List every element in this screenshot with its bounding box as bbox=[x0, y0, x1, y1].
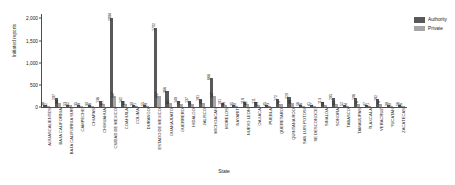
x-axis-tick-text: VERACRUZ bbox=[379, 108, 384, 131]
bar-private: 94 bbox=[58, 103, 61, 107]
x-axis-tick-text: CHIHUAHUA bbox=[102, 108, 107, 133]
x-axis-tick-text: OAXACA bbox=[257, 108, 262, 125]
bar-group: 13757 bbox=[185, 14, 196, 107]
bar-chart: Initiated reports 05001,0001,5002,000362… bbox=[0, 0, 455, 185]
bar-group: 3518 bbox=[74, 14, 85, 107]
bar-value-label: 1792 bbox=[152, 23, 156, 31]
bar-private: 70 bbox=[379, 104, 382, 107]
bar-value-label: 19 bbox=[388, 103, 392, 107]
x-axis-tick-text: SE DESCONOCE bbox=[313, 108, 318, 142]
x-axis-tick-text: NUEVO LEON bbox=[246, 108, 251, 135]
y-axis-title: Initiated reports bbox=[12, 1, 17, 81]
bar-private: 82 bbox=[169, 103, 172, 107]
bar-group: 4117 bbox=[307, 14, 318, 107]
bar-group: 5528 bbox=[141, 14, 152, 107]
bar-value-label: 26 bbox=[88, 103, 92, 107]
bar-private: 19 bbox=[390, 106, 393, 107]
bar-value-label: 26 bbox=[299, 103, 303, 107]
bar-value-label: 26 bbox=[399, 103, 403, 107]
bar-group: 5626 bbox=[396, 14, 407, 107]
bar-group: 14264 bbox=[119, 14, 130, 107]
bar-group: 11148 bbox=[252, 14, 263, 107]
bar-value-label: 366 bbox=[163, 87, 167, 93]
x-axis-tick-text: MORELOS bbox=[224, 108, 229, 129]
bar-private: 74 bbox=[357, 104, 360, 107]
bar-private: 247 bbox=[213, 96, 216, 107]
bar-group: 19674 bbox=[352, 14, 363, 107]
bar-value-label: 72 bbox=[177, 101, 181, 105]
x-axis-tick-text: NAYARIT bbox=[235, 108, 240, 125]
bar-private: 28 bbox=[146, 106, 149, 107]
bar-group: 3921 bbox=[130, 14, 141, 107]
x-axis-tick-text: SONORA bbox=[335, 108, 340, 126]
bar-value-label: 42 bbox=[66, 102, 70, 106]
bar-private: 79 bbox=[279, 104, 282, 107]
x-axis-tick-text: BAJA CALIFORNIA SUR bbox=[69, 108, 74, 154]
bar-value-label: 38 bbox=[222, 102, 226, 106]
x-axis-tick-text: HIDALGO bbox=[191, 108, 196, 127]
bar-value-label: 70 bbox=[377, 101, 381, 105]
bar-group: 36682 bbox=[163, 14, 174, 107]
bar-group: 666247 bbox=[207, 14, 218, 107]
x-axis-tick-text: TAMAULIPAS bbox=[357, 108, 362, 134]
x-axis-tick-text: BAJA CALIFORNIA bbox=[58, 108, 63, 144]
bar-private: 64 bbox=[124, 104, 127, 107]
bar-value-label: 74 bbox=[355, 101, 359, 105]
x-axis-tick-label: ZACATECAS bbox=[401, 108, 426, 113]
bar-value-label: 79 bbox=[277, 100, 281, 104]
x-axis-tick-text: QUERETARO bbox=[279, 108, 284, 134]
bar-group: 11354 bbox=[318, 14, 329, 107]
bar-value-label: 23 bbox=[266, 103, 270, 107]
bar-value-label: 21 bbox=[366, 103, 370, 107]
bar-value-label: 94 bbox=[55, 100, 59, 104]
x-axis-tick-labels: AGUASCALIENTESBAJA CALIFORNIABAJA CALIFO… bbox=[41, 108, 407, 166]
x-axis-tick-text: QUINTANA ROO bbox=[291, 108, 296, 140]
x-axis-tick-text: SINALOA bbox=[324, 108, 329, 126]
x-axis-tick-text: ZACATECAS bbox=[401, 108, 406, 133]
x-axis-tick-text: COLIMA bbox=[135, 108, 140, 124]
bar-group: 3819 bbox=[385, 14, 396, 107]
bar-private: 72 bbox=[180, 104, 183, 107]
bar-value-label: 48 bbox=[255, 102, 259, 106]
bar-group: 14072 bbox=[174, 14, 185, 107]
bar-value-label: 257 bbox=[155, 92, 159, 98]
bar-group: 2004247 bbox=[108, 14, 119, 107]
legend-label-private: Private bbox=[428, 26, 443, 31]
bar-value-label: 62 bbox=[244, 101, 248, 105]
bar-value-label: 196 bbox=[352, 94, 356, 100]
bar-value-label: 28 bbox=[144, 103, 148, 107]
bar-private: 21 bbox=[135, 106, 138, 107]
bar-group: 20794 bbox=[52, 14, 63, 107]
bar-group: 3622 bbox=[41, 14, 52, 107]
bar-value-label: 54 bbox=[321, 102, 325, 106]
x-axis-tick-text: PUEBLA bbox=[268, 108, 273, 124]
bar-value-label: 205 bbox=[329, 94, 333, 100]
bar-value-label: 57 bbox=[188, 101, 192, 105]
x-axis-tick-text: TLAXCALA bbox=[368, 108, 373, 129]
x-axis-tick-text: ESTADO DE MEXICO bbox=[157, 108, 162, 149]
x-axis-tick-text: MICHOACAN bbox=[213, 108, 218, 133]
bar-private: 48 bbox=[257, 105, 260, 107]
bar-private: 247 bbox=[113, 96, 116, 107]
bar-private: 23 bbox=[268, 106, 271, 107]
bar-group: 5224 bbox=[340, 14, 351, 107]
x-axis-tick-text: CHIAPAS bbox=[91, 108, 96, 126]
x-axis-tick-text: GUERRERO bbox=[180, 108, 185, 132]
bar-group: 4523 bbox=[263, 14, 274, 107]
x-axis-tick-text: CIUDAD DE MEXICO bbox=[113, 108, 118, 149]
bar-value-label: 22 bbox=[44, 103, 48, 107]
bar-group: 4721 bbox=[363, 14, 374, 107]
plot-area: 05001,0001,5002,000362220794534235183926… bbox=[41, 14, 407, 107]
bar-group: 11862 bbox=[241, 14, 252, 107]
legend-swatch-authority bbox=[414, 17, 425, 23]
bar-private: 62 bbox=[246, 104, 249, 107]
x-axis-tick-text: SAN LUIS POTOSI bbox=[302, 108, 307, 144]
bar-value-label: 247 bbox=[210, 92, 214, 98]
x-axis-title: State bbox=[41, 168, 407, 174]
bar-value-label: 19 bbox=[233, 103, 237, 107]
bar-private: 42 bbox=[69, 105, 72, 107]
bar-private: 57 bbox=[191, 104, 194, 107]
bar-value-label: 2004 bbox=[108, 13, 112, 21]
bar-group: 5626 bbox=[296, 14, 307, 107]
bar-value-label: 64 bbox=[122, 101, 126, 105]
